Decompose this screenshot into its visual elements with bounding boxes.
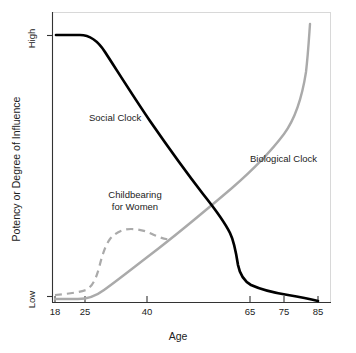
y-tick-label-high: High	[26, 19, 37, 59]
y-tick-label-low: Low	[26, 280, 37, 320]
x-tick-label-25: 25	[70, 306, 100, 317]
x-tick-label-40: 40	[132, 306, 162, 317]
x-tick-label-18: 18	[40, 306, 70, 317]
chart-plot-area	[0, 0, 356, 353]
annotation-biological-clock: Biological Clock	[250, 153, 317, 165]
x-tick-label-75: 75	[269, 306, 299, 317]
x-axis-title: Age	[0, 330, 356, 342]
y-axis-title: Potency or Degree of Influence	[10, 79, 22, 259]
chart-figure: Potency or Degree of Influence High Low …	[0, 0, 356, 353]
annotation-childbearing: Childbearing for Women	[90, 189, 180, 213]
annotation-childbearing-line1: Childbearing	[90, 189, 180, 201]
annotation-childbearing-line2: for Women	[90, 201, 180, 213]
x-tick-label-85: 85	[303, 306, 333, 317]
x-tick-label-65: 65	[235, 306, 265, 317]
annotation-social-clock: Social Clock	[89, 112, 141, 124]
